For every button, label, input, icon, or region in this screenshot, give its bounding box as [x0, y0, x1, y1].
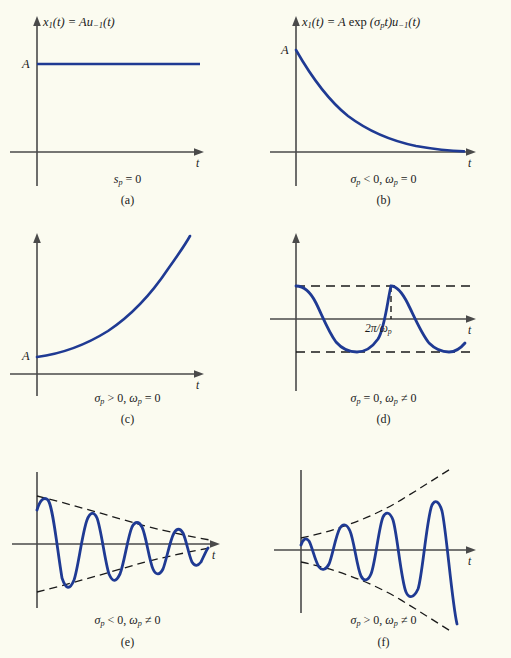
- panel-b-caption: σp < 0, ωp = 0: [256, 173, 511, 187]
- x-axis: [10, 148, 204, 156]
- panel-a: x1(t) = Au−1(t) A t sp = 0 (a): [0, 0, 255, 219]
- panel-f-t-axis-label: t: [468, 556, 471, 568]
- panel-c-t-axis-label: t: [196, 380, 199, 392]
- panel-a-caption: sp = 0: [0, 173, 255, 187]
- curve-growing-exponential: [37, 236, 190, 357]
- y-axis: [292, 233, 300, 391]
- panel-b-t-axis-label: t: [468, 158, 471, 170]
- x-axis: [12, 540, 220, 548]
- envelope-upper-dashed: [301, 468, 452, 538]
- panel-e-caption: σp < 0, ωp ≠ 0: [0, 614, 255, 628]
- panel-f-id: (f): [256, 636, 511, 648]
- signal-waveforms-figure: x1(t) = Au−1(t) A t sp = 0 (a) x1(t) = A…: [0, 0, 511, 658]
- panel-a-t-axis-label: t: [196, 158, 199, 170]
- panel-a-formula: x1(t) = Au−1(t): [43, 16, 115, 30]
- panel-e-id: (e): [0, 636, 255, 648]
- panel-a-id: (a): [0, 194, 255, 206]
- panel-c-caption: σp > 0, ωp = 0: [0, 392, 255, 406]
- panel-d-caption: σp = 0, ωp ≠ 0: [256, 392, 511, 406]
- panel-f-caption: σp > 0, ωp ≠ 0: [256, 614, 511, 628]
- envelope-lower-dashed: [37, 548, 210, 592]
- panel-a-amplitude-label: A: [22, 58, 30, 71]
- panel-c-id: (c): [0, 413, 255, 425]
- panel-e-t-axis-label: t: [212, 550, 215, 562]
- panel-b-amplitude-label: A: [281, 44, 289, 57]
- curve-decaying-exponential: [296, 50, 464, 151]
- panel-d-t-axis-label: t: [468, 325, 471, 337]
- x-axis: [10, 370, 204, 378]
- panel-f: t σp > 0, ωp ≠ 0 (f): [256, 438, 511, 658]
- y-axis: [33, 233, 41, 396]
- curve-growing-oscillation: [301, 502, 457, 624]
- y-axis: [292, 16, 300, 186]
- panel-d: 2π/ωp t σp = 0, ωp ≠ 0 (d): [256, 219, 511, 438]
- y-axis: [33, 16, 41, 186]
- panel-d-id: (d): [256, 413, 511, 425]
- panel-b-formula: x1(t) = A exp (σpt)u−1(t): [302, 16, 420, 30]
- panel-c-amplitude-label: A: [22, 350, 30, 363]
- panel-d-period-label: 2π/ωp: [365, 323, 392, 336]
- curve-damped-oscillation: [37, 498, 208, 587]
- panel-b: x1(t) = A exp (σpt)u−1(t) A t σp < 0, ωp…: [256, 0, 511, 219]
- panel-c: A t σp > 0, ωp = 0 (c): [0, 219, 255, 438]
- panel-e: t σp < 0, ωp ≠ 0 (e): [0, 438, 255, 658]
- panel-b-id: (b): [256, 194, 511, 206]
